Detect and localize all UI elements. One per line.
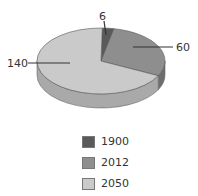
legend-label: 2050 <box>101 177 129 190</box>
legend-label: 1900 <box>101 135 129 148</box>
data-label-2050: 140 <box>7 57 28 70</box>
data-label-1900: 6 <box>99 10 106 23</box>
legend-item-2012: 2012 <box>82 152 129 173</box>
pie-chart: 6 60 140 <box>0 0 198 130</box>
legend-item-1900: 1900 <box>82 131 129 152</box>
legend-swatch-1900 <box>82 136 95 148</box>
legend-swatch-2050 <box>82 178 95 190</box>
legend: 1900 2012 2050 <box>82 131 129 194</box>
legend-swatch-2012 <box>82 157 95 169</box>
pie-top <box>37 28 165 94</box>
data-label-2012: 60 <box>176 41 190 54</box>
legend-item-2050: 2050 <box>82 173 129 194</box>
legend-label: 2012 <box>101 156 129 169</box>
